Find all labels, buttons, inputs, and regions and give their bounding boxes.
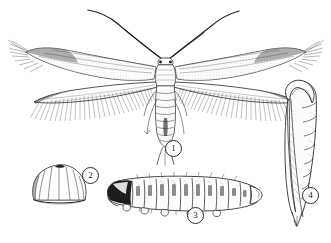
illustration-plate: 1 2 3 4 [0, 0, 331, 243]
life-stages-drawing [0, 0, 331, 243]
figure-label-1: 1 [165, 140, 182, 157]
figure-label-2: 2 [82, 167, 99, 184]
figure-label-4: 4 [302, 187, 319, 204]
figure-label-3: 3 [187, 207, 204, 224]
